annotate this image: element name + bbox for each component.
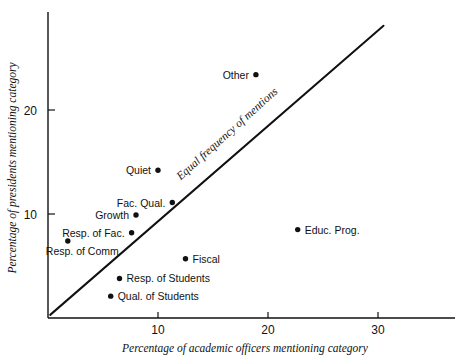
x-axis-title: Percentage of academic officers mentioni… xyxy=(121,342,369,355)
point-labels-group: OtherQuietFac. Qual.GrowthResp. of Fac.R… xyxy=(46,69,360,303)
x-axis-tick-label: 20 xyxy=(261,323,275,337)
data-point-label: Qual. of Students xyxy=(118,290,199,302)
data-point[interactable] xyxy=(295,227,300,232)
data-point-label: Resp. of Students xyxy=(127,272,210,284)
data-point[interactable] xyxy=(129,230,134,235)
data-point-label: Other xyxy=(223,69,250,81)
equal-frequency-line xyxy=(50,26,383,315)
data-point-label: Fac. Qual. xyxy=(117,197,165,209)
data-point[interactable] xyxy=(170,200,175,205)
data-point-label: Fiscal xyxy=(193,253,220,265)
data-point-label: Resp. of Comm. xyxy=(46,245,122,257)
axis-titles-group: Percentage of academic officers mentioni… xyxy=(6,62,369,355)
equal-frequency-line-group: Equal frequency of mentions xyxy=(50,26,383,315)
x-axis-tick-label: 30 xyxy=(371,323,385,337)
x-axis-tick-label: 10 xyxy=(151,323,165,337)
data-point[interactable] xyxy=(253,72,258,77)
data-point-label: Quiet xyxy=(126,164,151,176)
scatter-plot-figure: 1020301020 Equal frequency of mentions O… xyxy=(0,0,461,363)
data-point[interactable] xyxy=(117,276,122,281)
data-point-label: Resp. of Fac. xyxy=(62,227,124,239)
axes-group: 1020301020 xyxy=(24,12,455,337)
y-axis-title: Percentage of presidents mentioning cate… xyxy=(6,62,19,275)
data-point[interactable] xyxy=(155,168,160,173)
plot-canvas: 1020301020 Equal frequency of mentions O… xyxy=(0,0,461,363)
data-point-label: Growth xyxy=(95,209,129,221)
data-point-label: Educ. Prog. xyxy=(305,224,360,236)
data-point[interactable] xyxy=(183,256,188,261)
data-point[interactable] xyxy=(133,212,138,217)
y-axis-tick-label: 10 xyxy=(24,208,38,222)
data-point[interactable] xyxy=(65,238,70,243)
equal-frequency-line-label: Equal frequency of mentions xyxy=(173,85,281,184)
y-axis-tick-label: 20 xyxy=(24,104,38,118)
data-point[interactable] xyxy=(108,293,113,298)
